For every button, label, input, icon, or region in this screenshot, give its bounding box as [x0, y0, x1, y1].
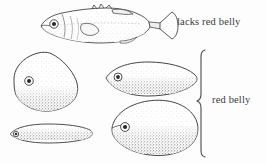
- brace-path: [197, 50, 205, 157]
- eye-pupil-icon: [52, 22, 56, 26]
- specimen-slender-spindle-body: [10, 124, 92, 143]
- caudal-peduncle: [149, 22, 161, 29]
- label-red-belly: red belly: [212, 94, 250, 105]
- label-lacks-red-belly: lacks red belly: [177, 16, 240, 27]
- figure-canvas: lacks red belly red belly: [0, 0, 266, 164]
- eye-pupil-icon: [15, 133, 18, 136]
- specimen-lateral-whole-fish: [41, 4, 178, 43]
- eye-pupil-icon: [116, 75, 120, 79]
- eye-pupil-icon: [27, 79, 31, 83]
- diamond-belly-shading: [14, 52, 78, 111]
- specimen-deep-diamond-body: [14, 52, 78, 111]
- specimen-medium-ellipse-body: [106, 62, 197, 96]
- red-belly-brace: [197, 50, 205, 157]
- dorsal-spine-icon: [99, 4, 104, 8]
- dorsal-fin: [112, 9, 133, 14]
- eye-pupil-icon: [123, 125, 127, 129]
- specimen-broad-lens-body: [112, 100, 198, 155]
- caudal-fin: [160, 12, 178, 39]
